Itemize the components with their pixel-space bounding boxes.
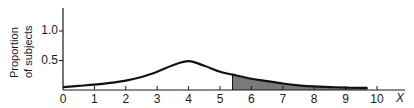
x-axis-label: X — [396, 91, 404, 105]
y-tick-label: 0.5 — [36, 53, 58, 67]
x-tick-label: 4 — [181, 92, 197, 106]
x-tick-label: 0 — [55, 92, 71, 106]
x-tick-label: 8 — [306, 92, 322, 106]
x-tick-label: 9 — [338, 92, 354, 106]
distribution-curve — [63, 61, 368, 88]
y-axis-label-line-2: of subjects — [22, 25, 34, 78]
x-tick-label: 1 — [86, 92, 102, 106]
distribution-chart: Proportion of subjects 0.51.0 0123456789… — [0, 0, 414, 108]
x-tick-label: 7 — [275, 92, 291, 106]
y-tick-label: 1.0 — [36, 23, 58, 37]
x-tick-label: 6 — [243, 92, 259, 106]
x-tick-label: 3 — [149, 92, 165, 106]
x-tick-label: 5 — [212, 92, 228, 106]
x-tick-label: 10 — [369, 92, 385, 106]
y-axis-label-line-1: Proportion — [8, 27, 20, 78]
y-axis-label: Proportion of subjects — [0, 0, 40, 108]
x-tick-label: 2 — [118, 92, 134, 106]
